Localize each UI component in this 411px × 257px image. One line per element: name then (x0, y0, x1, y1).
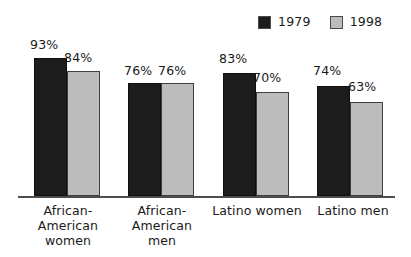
bar-1979-latino-men (317, 86, 350, 196)
bars-container (317, 0, 383, 196)
bars-container (34, 0, 100, 196)
value-label-1979-latino-women: 83% (219, 53, 247, 66)
bar-1998-african-american-men (161, 83, 194, 196)
bar-1979-latino-women (223, 73, 256, 196)
category-label-latino-men: Latino men (307, 203, 399, 218)
x-axis-line (18, 196, 395, 198)
bar-chart: 1979 1998 93% 84% 76% 76% (0, 0, 411, 257)
category-label-african-american-men: African- American men (116, 203, 208, 248)
bar-1998-latino-men (350, 102, 383, 196)
bar-1979-african-american-men (128, 83, 161, 196)
bar-1998-african-american-women (67, 71, 100, 196)
value-label-1979-african-american-men: 76% (124, 65, 152, 78)
bar-1979-african-american-women (34, 58, 67, 196)
bar-1998-latino-women (256, 92, 289, 196)
plot-area: 93% 84% 76% 76% 83% 70% 74% (0, 0, 411, 197)
bars-container (128, 0, 194, 196)
value-label-1998-african-american-women: 84% (64, 52, 92, 65)
value-label-1998-african-american-men: 76% (158, 65, 186, 78)
category-label-african-american-women: African- American women (22, 203, 114, 248)
value-label-1998-latino-men: 63% (348, 81, 376, 94)
category-label-latino-women: Latino women (211, 203, 303, 218)
value-label-1979-african-american-women: 93% (30, 39, 58, 52)
value-label-1998-latino-women: 70% (253, 72, 281, 85)
value-label-1979-latino-men: 74% (313, 65, 341, 78)
bars-container (223, 0, 289, 196)
